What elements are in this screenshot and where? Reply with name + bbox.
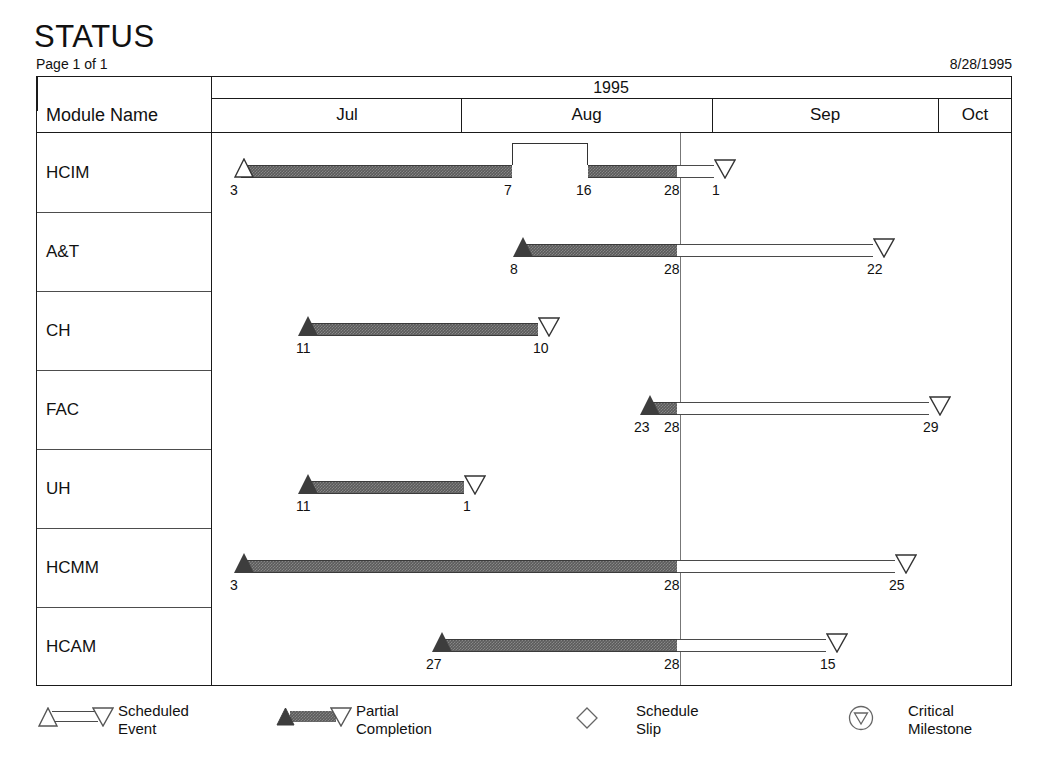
month-divider bbox=[712, 98, 713, 132]
partial-completion-icon bbox=[274, 698, 356, 732]
gantt-row[interactable]: CH1110 bbox=[37, 291, 1011, 370]
legend-item-critical-milestone: Critical Milestone bbox=[826, 698, 972, 738]
end-marker-triangle-icon[interactable] bbox=[873, 238, 895, 258]
gantt-row[interactable]: FAC232829 bbox=[37, 370, 1011, 449]
month-divider bbox=[938, 98, 939, 132]
legend-label: Critical Milestone bbox=[908, 698, 972, 738]
start-marker-filled-triangle-icon[interactable] bbox=[513, 237, 533, 257]
month-label: Sep bbox=[810, 105, 840, 125]
legend-label: Scheduled Event bbox=[118, 698, 189, 738]
gantt-row[interactable]: A&T82822 bbox=[37, 212, 1011, 291]
gantt-track: 32825 bbox=[211, 528, 1011, 607]
date-label: 28 bbox=[664, 419, 680, 435]
date-label: 28 bbox=[664, 261, 680, 277]
report-date: 8/28/1995 bbox=[950, 56, 1012, 72]
legend-item-partial-completion: Partial Completion bbox=[274, 698, 432, 738]
start-marker-hollow-triangle-icon[interactable] bbox=[234, 158, 254, 178]
gantt-track: 3716281 bbox=[211, 133, 1011, 212]
legend-label: Schedule Slip bbox=[636, 698, 699, 738]
gantt-bar-remaining[interactable] bbox=[677, 639, 826, 652]
legend-item-scheduled-event: Scheduled Event bbox=[36, 698, 189, 738]
year-header-cell: 1995 bbox=[211, 77, 1011, 98]
gantt-bar-completed[interactable] bbox=[241, 165, 512, 178]
date-label: 28 bbox=[664, 656, 680, 672]
page-label: Page 1 of 1 bbox=[36, 56, 108, 72]
gantt-bar-completed[interactable] bbox=[439, 639, 677, 652]
date-label: 1 bbox=[463, 498, 471, 514]
date-label: 16 bbox=[576, 182, 592, 198]
triangle-down-hollow-icon bbox=[92, 707, 113, 726]
end-marker-triangle-icon[interactable] bbox=[929, 396, 951, 416]
legend: Scheduled EventPartial CompletionSchedul… bbox=[36, 698, 1012, 760]
gantt-track: 232829 bbox=[211, 370, 1011, 449]
row-label-hcmm: HCMM bbox=[46, 528, 211, 607]
start-marker-filled-triangle-icon[interactable] bbox=[640, 395, 660, 415]
start-marker-filled-triangle-icon[interactable] bbox=[234, 553, 254, 573]
gantt-track: 111 bbox=[211, 449, 1011, 528]
end-marker-triangle-icon[interactable] bbox=[714, 159, 736, 179]
gantt-track: 272815 bbox=[211, 607, 1011, 686]
gantt-track: 1110 bbox=[211, 291, 1011, 370]
month-divider bbox=[461, 98, 462, 132]
gantt-rows-area: HCIM3716281A&T82822CH1110FAC232829UH111H… bbox=[37, 133, 1011, 685]
start-marker-filled-triangle-icon[interactable] bbox=[298, 316, 318, 336]
start-marker-filled-triangle-icon[interactable] bbox=[298, 474, 318, 494]
gantt-bar-completed[interactable] bbox=[520, 244, 677, 257]
date-label: 7 bbox=[504, 182, 512, 198]
gantt-track: 82822 bbox=[211, 212, 1011, 291]
diamond-icon bbox=[576, 707, 598, 729]
gantt-bar-completed[interactable] bbox=[241, 560, 677, 573]
end-marker-triangle-icon[interactable] bbox=[895, 554, 917, 574]
month-header-jul: Jul bbox=[233, 98, 461, 132]
gantt-bar-completed[interactable] bbox=[588, 165, 677, 178]
row-label-uh: UH bbox=[46, 449, 211, 528]
row-label-a-t: A&T bbox=[46, 212, 211, 291]
gantt-row[interactable]: UH111 bbox=[37, 449, 1011, 528]
month-label: Jul bbox=[336, 105, 358, 125]
gantt-bar-completed[interactable] bbox=[306, 481, 464, 494]
gantt-bar-remaining[interactable] bbox=[677, 402, 929, 415]
schedule-slip-icon bbox=[554, 698, 636, 732]
scheduled-event-icon bbox=[36, 698, 118, 732]
month-header-sep: Sep bbox=[712, 98, 938, 132]
date-label: 28 bbox=[664, 182, 680, 198]
month-header-oct: Oct bbox=[938, 98, 1012, 132]
legend-label: Partial Completion bbox=[356, 698, 432, 738]
gantt-bar-completed[interactable] bbox=[306, 323, 538, 336]
row-label-fac: FAC bbox=[46, 370, 211, 449]
date-label: 28 bbox=[664, 577, 680, 593]
gantt-bar-remaining[interactable] bbox=[677, 165, 714, 178]
date-label: 3 bbox=[230, 182, 238, 198]
end-marker-triangle-icon[interactable] bbox=[826, 633, 848, 653]
triangle-down-hollow-icon bbox=[330, 707, 351, 726]
start-marker-filled-triangle-icon[interactable] bbox=[432, 632, 452, 652]
triangle-up-hollow-icon bbox=[38, 707, 57, 726]
month-header-aug: Aug bbox=[461, 98, 712, 132]
row-label-hcim: HCIM bbox=[46, 133, 211, 212]
date-label: 22 bbox=[867, 261, 883, 277]
gantt-bar-remaining[interactable] bbox=[677, 244, 873, 257]
end-marker-triangle-icon[interactable] bbox=[464, 475, 486, 495]
gantt-row[interactable]: HCAM272815 bbox=[37, 607, 1011, 686]
module-name-header: Module Name bbox=[37, 98, 211, 132]
date-label: 25 bbox=[889, 577, 905, 593]
legend-item-schedule-slip: Schedule Slip bbox=[554, 698, 699, 738]
month-label: Aug bbox=[571, 105, 601, 125]
date-label: 23 bbox=[634, 419, 650, 435]
critical-milestone-icon bbox=[826, 698, 908, 732]
gantt-row[interactable]: HCIM3716281 bbox=[37, 133, 1011, 212]
gantt-bar-remaining[interactable] bbox=[677, 560, 895, 573]
circled-triangle-icon bbox=[848, 705, 874, 731]
gantt-row[interactable]: HCMM32825 bbox=[37, 528, 1011, 607]
row-label-ch: CH bbox=[46, 291, 211, 370]
date-label: 11 bbox=[296, 498, 311, 514]
date-label: 29 bbox=[923, 419, 939, 435]
triangle-up-filled-icon bbox=[276, 707, 295, 726]
date-label: 11 bbox=[296, 340, 311, 356]
end-marker-triangle-icon[interactable] bbox=[538, 317, 560, 337]
row-label-hcam: HCAM bbox=[46, 607, 211, 686]
page-title: STATUS bbox=[34, 20, 155, 54]
date-label: 1 bbox=[712, 182, 720, 198]
date-label: 15 bbox=[820, 656, 836, 672]
date-label: 10 bbox=[533, 340, 549, 356]
